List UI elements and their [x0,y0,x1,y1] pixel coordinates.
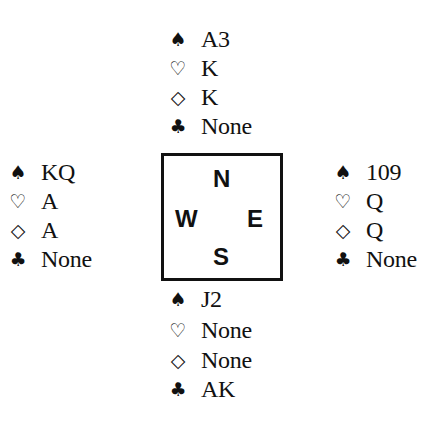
west-diamonds: A [41,216,58,244]
east-hearts: Q [366,187,383,215]
heart-icon: ♡ [168,54,188,82]
west-hearts: A [41,187,58,215]
west-spades: KQ [41,158,75,186]
diamond-icon: ◇ [8,216,28,244]
north-spades: A3 [201,25,230,53]
diamond-icon: ◇ [333,216,353,244]
heart-icon: ♡ [8,187,28,215]
south-clubs: AK [201,375,235,403]
club-icon: ♣ [8,245,28,273]
compass-south: S [213,245,229,269]
south-diamonds: None [201,346,252,374]
diamond-icon: ◇ [168,83,188,111]
east-spades: 109 [366,158,401,186]
compass-north: N [213,167,230,191]
compass-box: N W E S [161,153,283,281]
east-clubs: None [366,245,417,273]
heart-icon: ♡ [333,187,353,215]
north-diamonds: K [201,83,218,111]
spade-icon: ♠ [333,158,353,186]
spade-icon: ♠ [168,25,188,53]
diamond-icon: ◇ [168,346,188,374]
club-icon: ♣ [333,245,353,273]
club-icon: ♣ [168,375,188,403]
compass-west: W [175,207,198,231]
spade-icon: ♠ [168,285,188,313]
south-spades: J2 [201,285,222,313]
west-clubs: None [41,245,92,273]
north-clubs: None [201,112,252,140]
compass-east: E [247,207,263,231]
club-icon: ♣ [168,112,188,140]
spade-icon: ♠ [8,158,28,186]
east-diamonds: Q [366,216,383,244]
north-hearts: K [201,54,218,82]
south-hearts: None [201,316,252,344]
heart-icon: ♡ [168,316,188,344]
